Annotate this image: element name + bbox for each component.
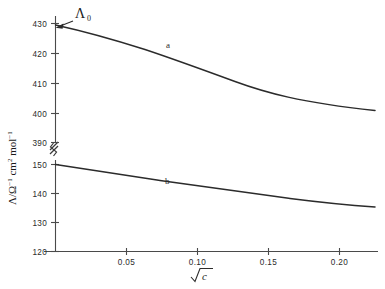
ytick-label-400: 400 — [32, 110, 47, 119]
curve-a-path — [56, 25, 376, 111]
lambda-zero-annotation: Λ 0 — [56, 6, 92, 29]
axis-break-symbol — [50, 142, 58, 156]
y-tick-labels-upper: 430 420 410 400 390 — [32, 20, 47, 148]
axis-group — [44, 16, 378, 252]
conductivity-chart-figure: 430 420 410 400 390 150 140 130 120 0. — [0, 0, 385, 289]
y-tick-labels-lower: 150 140 130 120 — [32, 161, 47, 257]
lambda-zero-subscript: 0 — [87, 14, 91, 23]
chart-svg: 430 420 410 400 390 150 140 130 120 0. — [0, 0, 385, 289]
curve-b-path — [56, 165, 376, 208]
y-axis-title-mol-sup: −1 — [6, 131, 14, 139]
ytick-label-120: 120 — [32, 248, 47, 257]
xtick-label-005: 0.05 — [118, 258, 136, 267]
ytick-label-410: 410 — [32, 80, 47, 89]
lambda-zero-symbol: Λ — [75, 6, 86, 21]
xtick-label-015: 0.15 — [260, 258, 278, 267]
y-axis-title-lambda: Λ — [6, 197, 18, 205]
x-tick-labels: 0.05 0.10 0.15 0.20 — [118, 258, 349, 267]
y-axis-title-mol: mol — [6, 139, 18, 156]
ytick-label-150: 150 — [32, 161, 47, 170]
lambda-zero-arrow-head — [56, 24, 64, 29]
curve-label-b: b — [165, 176, 170, 186]
ytick-label-420: 420 — [32, 50, 47, 59]
ytick-label-140: 140 — [32, 190, 47, 199]
xtick-label-010: 0.10 — [189, 258, 207, 267]
y-axis-title-ohm: Ω — [6, 186, 18, 194]
ytick-label-430: 430 — [32, 20, 47, 29]
y-axis-title: Λ/Ω−1 cm2 mol−1 — [6, 131, 18, 205]
y-axis-title-cm: cm — [6, 162, 18, 176]
ytick-label-130: 130 — [32, 219, 47, 228]
ytick-label-390: 390 — [32, 139, 47, 148]
x-axis-title-c: c — [202, 270, 207, 282]
x-axis-title: c — [191, 269, 213, 283]
curve-label-a: a — [166, 40, 170, 50]
xtick-label-020: 0.20 — [331, 258, 349, 267]
y-axis-title-text: Λ/Ω−1 cm2 mol−1 — [6, 131, 18, 205]
